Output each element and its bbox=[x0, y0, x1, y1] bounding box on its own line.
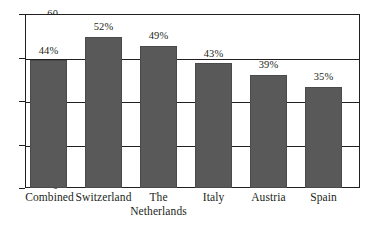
x-label-italy-line1: Italy bbox=[203, 191, 225, 203]
x-label-spain-line1: Spain bbox=[310, 191, 337, 203]
value-label-spain: 35% bbox=[305, 71, 342, 82]
bars-layer bbox=[25, 14, 360, 188]
bar-switzerland[interactable] bbox=[85, 37, 122, 188]
bar-spain[interactable] bbox=[305, 87, 342, 189]
x-label-netherlands-line1: The bbox=[149, 191, 167, 203]
bar-austria[interactable] bbox=[250, 75, 287, 188]
y-axis-tick-0 bbox=[19, 188, 25, 189]
value-label-austria: 39% bbox=[250, 59, 287, 70]
value-label-italy: 43% bbox=[195, 48, 232, 59]
value-label-switzerland: 52% bbox=[85, 21, 122, 32]
bar-combined[interactable] bbox=[30, 60, 67, 188]
value-label-netherlands: 49% bbox=[140, 30, 177, 41]
x-label-netherlands-line2: Netherlands bbox=[122, 204, 195, 218]
x-label-austria-line1: Austria bbox=[251, 191, 286, 203]
bar-chart: 60 45 30 15 0 44% 52% 49% 43% 39% 35% Co… bbox=[0, 0, 369, 230]
bar-italy[interactable] bbox=[195, 63, 232, 188]
x-axis-category-labels: Combined Switzerland The Netherlands Ita… bbox=[25, 190, 360, 230]
bar-netherlands[interactable] bbox=[140, 46, 177, 188]
x-label-spain: Spain bbox=[287, 190, 360, 204]
value-label-combined: 44% bbox=[30, 45, 67, 56]
